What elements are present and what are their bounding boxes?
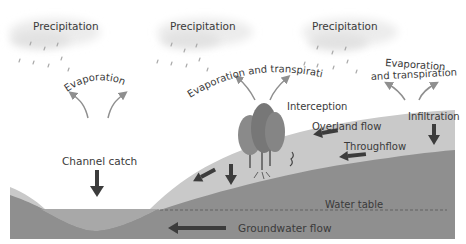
label-interception: Interception (287, 101, 347, 112)
label-infiltration: Infiltration (408, 111, 460, 122)
label-precipitation-1: Precipitation (33, 20, 99, 32)
arrow-icon (108, 94, 124, 118)
label-channel-catch: Channel catch (62, 155, 137, 167)
diagram-canvas: Precipitation Precipitation Precipitatio… (0, 0, 466, 244)
label-groundwater-flow: Groundwater flow (238, 222, 332, 234)
label-overland-flow: Overland flow (312, 121, 381, 132)
label-throughflow: Throughflow (343, 141, 406, 152)
arrow-icon (388, 84, 405, 100)
label-precipitation-2: Precipitation (170, 20, 236, 32)
arrow-icon (90, 170, 104, 197)
hydrological-cycle-diagram: Precipitation Precipitation Precipitatio… (0, 0, 466, 244)
arrow-icon (419, 84, 435, 100)
label-evaporation: Evaporation (62, 71, 127, 93)
label-precipitation-3: Precipitation (312, 20, 378, 32)
evaporation-arrows (72, 78, 435, 118)
arrow-icon (270, 78, 287, 100)
label-evaporation-transpiration-right-2: and transpiration (371, 66, 458, 81)
label-evaporation-transpiration-center: Evaporation and transpiration (0, 0, 324, 100)
arrow-icon (238, 78, 255, 100)
arrow-icon (72, 94, 88, 118)
label-water-table: Water table (325, 199, 383, 210)
